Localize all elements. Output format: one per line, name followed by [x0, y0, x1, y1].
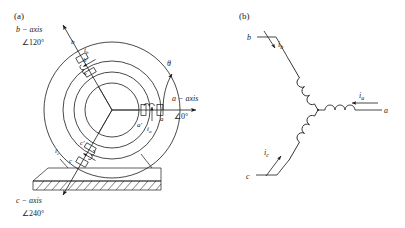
- terminal-c-label: c: [246, 172, 250, 181]
- machine-figure: (a): [0, 0, 405, 228]
- panel-a: (a): [14, 11, 198, 218]
- panel-b: (b) a ia b ib: [239, 11, 388, 181]
- panel-a-label: (a): [14, 11, 24, 21]
- conductor-c-label: c: [69, 157, 73, 165]
- neutral-node: [317, 109, 319, 111]
- current-ic-label: ic: [55, 147, 60, 156]
- panel-b-label: (b): [239, 11, 250, 21]
- phase-c-branch: [256, 108, 318, 177]
- phase-b-branch: [257, 31, 318, 113]
- terminal-a-label: a: [384, 106, 388, 115]
- a-axis-label: a − axis: [172, 94, 198, 103]
- b-axis-angle-label: ∠120°: [22, 38, 44, 47]
- terminal-b-label: b: [247, 33, 251, 42]
- theta-label: θ: [167, 59, 171, 68]
- conductor-a-prime-label: a′: [137, 121, 143, 129]
- phase-a-branch: [318, 103, 382, 110]
- b-axis-label: b − axis: [16, 25, 42, 34]
- conductor-c-prime-label: c′: [80, 139, 85, 147]
- c-axis-label: c − axis: [16, 196, 42, 205]
- machine-base: [33, 154, 161, 190]
- current-ib-label-b: ib: [278, 40, 283, 50]
- current-ic-label-b: ic: [264, 148, 269, 158]
- conductor-b-label: b: [71, 38, 75, 46]
- c-axis-angle-label: ∠240°: [22, 209, 44, 218]
- conductor-a-label: a: [160, 115, 164, 123]
- a-axis-angle-label: ∠0°: [174, 112, 188, 121]
- current-ia-label: ia: [147, 125, 152, 134]
- current-ia-label-b: ia: [359, 91, 364, 101]
- theta-arc: [163, 74, 172, 110]
- conductor-b-prime-label: b′: [83, 56, 89, 64]
- current-ib-arrow-b: [264, 31, 275, 48]
- c-axis-line: [63, 110, 112, 195]
